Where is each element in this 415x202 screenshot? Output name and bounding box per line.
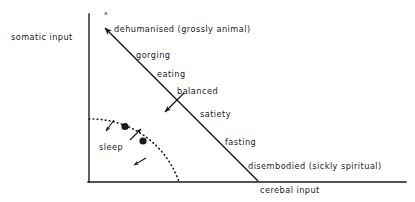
arc-flux-arrow-outward-2	[134, 158, 146, 165]
arc-marker-dot-1	[121, 123, 128, 130]
continuum-label-satiety: satiety	[200, 109, 231, 119]
diagram-canvas: somatic input cerebal input x dehumanise…	[0, 0, 415, 202]
continuum-axis-line	[105, 28, 258, 181]
continuum-label-eating: eating	[157, 69, 186, 79]
arc-marker-dot-2	[139, 137, 146, 144]
region-label-sleep: sleep	[99, 142, 123, 152]
apex-marker-label: x	[104, 8, 108, 18]
x-axis-label: cerebal input	[260, 185, 320, 195]
continuum-label-balanced: balanced	[177, 86, 218, 96]
continuum-label-gorging: gorging	[136, 50, 170, 60]
continuum-label-disembodied: disembodied (sickly spiritual)	[248, 161, 382, 171]
y-axis-label: somatic input	[11, 32, 73, 42]
continuum-label-fasting: fasting	[225, 137, 256, 147]
continuum-label-dehumanised: dehumanised (grossly animal)	[114, 24, 251, 34]
